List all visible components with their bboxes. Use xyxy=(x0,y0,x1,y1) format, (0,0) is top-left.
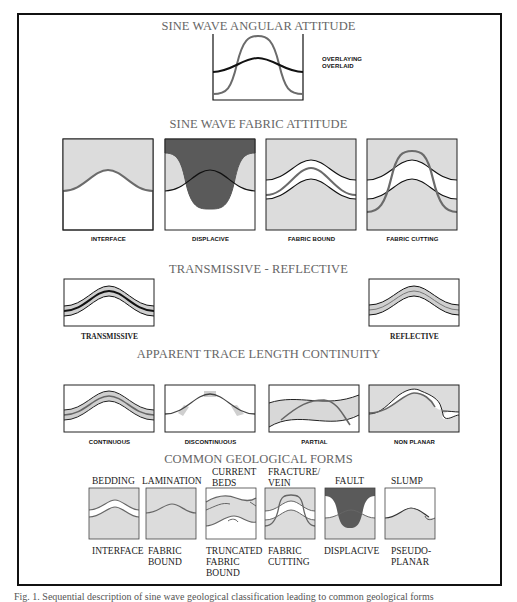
label-non-planar: NON PLANAR xyxy=(369,439,460,445)
overlaying-wave xyxy=(213,36,303,94)
label-transmissive: TRANSMISSIVE xyxy=(64,332,155,341)
overlaid-wave xyxy=(213,58,303,72)
form-label-slump: SLUMP xyxy=(391,476,423,487)
label-fabric-bound: FABRIC BOUND xyxy=(266,236,357,242)
panel-transmissive xyxy=(64,279,155,327)
form-panel-fault xyxy=(325,488,376,540)
form-panel-bedding xyxy=(89,488,140,540)
form-label-current-beds: CURRENT BEDS xyxy=(212,467,256,489)
panel-continuous xyxy=(64,385,155,433)
form-sublabel-displacive: DISPLACIVE xyxy=(324,546,379,557)
panel-reflective xyxy=(369,279,460,327)
form-panel-lamination xyxy=(146,488,197,540)
section-title-transmissive: TRANSMISSIVE - REFLECTIVE xyxy=(0,262,517,277)
label-continuous: CONTINUOUS xyxy=(64,439,155,445)
panel-fabric-bound xyxy=(266,139,357,231)
legend-overlaid: OVERLAID xyxy=(322,63,354,69)
form-sublabel-interface: INTERFACE xyxy=(92,546,144,557)
form-sublabel-truncated: TRUNCATED FABRIC BOUND xyxy=(206,546,262,579)
form-sublabel-interface-line1: INTERFACE xyxy=(92,546,144,557)
label-interface: INTERFACE xyxy=(63,236,154,242)
section-title-continuity: APPARENT TRACE LENGTH CONTINUITY xyxy=(0,347,517,362)
form-sublabel-tr-line1: TRUNCATED xyxy=(206,546,262,557)
label-fabric-cutting: FABRIC CUTTING xyxy=(367,236,458,242)
form-sublabel-fabric-cutting: FABRIC CUTTING xyxy=(268,546,310,568)
label-displacive: DISPLACIVE xyxy=(165,236,256,242)
panel-interface xyxy=(63,139,154,231)
form-label-fracture-line1: FRACTURE/ xyxy=(268,467,320,478)
angular-attitude-diagram xyxy=(213,34,305,102)
form-sublabel-pseudo-planar: PSEUDO- PLANAR xyxy=(391,546,431,568)
panel-fabric-cutting xyxy=(367,139,458,231)
section-title-angular: SINE WAVE ANGULAR ATTITUDE xyxy=(0,19,517,34)
form-label-lamination: LAMINATION xyxy=(142,476,202,487)
form-sublabel-fabric-bound: FABRIC BOUND xyxy=(148,546,182,568)
form-sublabel-tr-line2: FABRIC xyxy=(206,557,262,568)
section-title-fabric: SINE WAVE FABRIC ATTITUDE xyxy=(0,117,517,132)
label-discontinuous: DISCONTINUOUS xyxy=(165,439,256,445)
section-title-geological: COMMON GEOLOGICAL FORMS xyxy=(0,452,517,467)
form-sublabel-fc-line1: FABRIC xyxy=(268,546,310,557)
panel-non-planar xyxy=(369,385,460,433)
form-panel-current-beds xyxy=(206,488,257,540)
form-sublabel-fb-line1: FABRIC xyxy=(148,546,182,557)
form-label-current-line1: CURRENT xyxy=(212,467,256,478)
label-reflective: REFLECTIVE xyxy=(369,332,460,341)
form-label-fault: FAULT xyxy=(335,476,364,487)
form-sublabel-tr-line3: BOUND xyxy=(206,568,262,579)
panel-discontinuous xyxy=(165,385,256,433)
panel-displacive xyxy=(165,139,256,231)
form-label-fracture-vein: FRACTURE/ VEIN xyxy=(268,467,320,489)
form-sublabel-fb-line2: BOUND xyxy=(148,557,182,568)
form-sublabel-pp-line1: PSEUDO- xyxy=(391,546,431,557)
panel-partial xyxy=(269,385,360,433)
figure-caption: Fig. 1. Sequential description of sine w… xyxy=(14,591,434,602)
form-panel-fracture-vein xyxy=(265,488,316,540)
form-label-bedding: BEDDING xyxy=(92,476,135,487)
form-sublabel-disp-line1: DISPLACIVE xyxy=(324,546,379,557)
form-sublabel-fc-line2: CUTTING xyxy=(268,557,310,568)
form-panel-slump xyxy=(385,488,436,540)
form-sublabel-pp-line2: PLANAR xyxy=(391,557,431,568)
legend-overlaying: OVERLAYING xyxy=(322,56,362,62)
label-partial: PARTIAL xyxy=(269,439,360,445)
